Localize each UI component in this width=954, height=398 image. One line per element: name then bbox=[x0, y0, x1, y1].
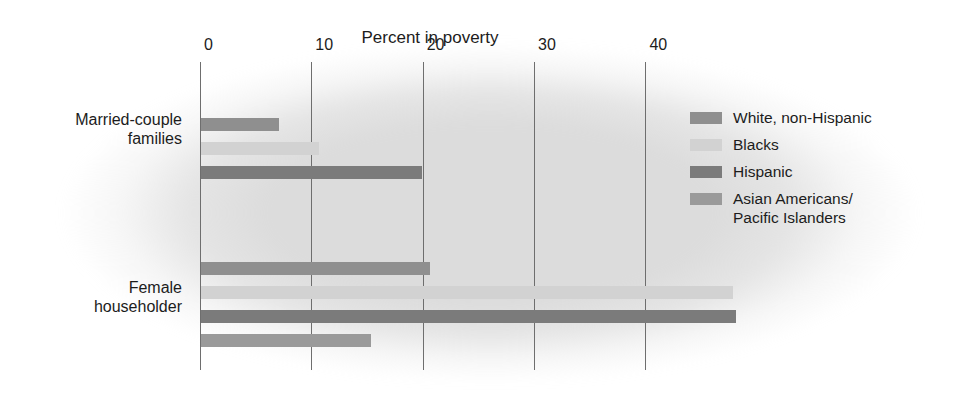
chart-legend: White, non-HispanicBlacksHispanicAsian A… bbox=[690, 108, 940, 235]
plot-area: 010203040 bbox=[200, 62, 690, 370]
gridline-20 bbox=[423, 62, 424, 370]
gridline-10 bbox=[311, 62, 312, 370]
legend-item: Hispanic bbox=[690, 162, 940, 181]
bar bbox=[201, 262, 430, 275]
category-label-line1: Married-couple bbox=[12, 110, 182, 129]
legend-swatch-icon bbox=[690, 139, 722, 151]
bar bbox=[201, 334, 371, 347]
gridline-0 bbox=[200, 62, 201, 370]
bar bbox=[201, 118, 279, 131]
x-tick-label-30: 30 bbox=[538, 36, 556, 54]
legend-swatch-icon bbox=[690, 166, 722, 178]
bar bbox=[201, 310, 736, 323]
legend-item: Asian Americans/ Pacific Islanders bbox=[690, 189, 940, 227]
category-label-line1: Female bbox=[12, 278, 182, 297]
category-label: Married-couplefamilies bbox=[12, 110, 182, 148]
legend-swatch-icon bbox=[690, 193, 722, 205]
x-tick-label-20: 20 bbox=[427, 36, 445, 54]
bar bbox=[201, 142, 319, 155]
chart-root: Percent in poverty 010203040 Married-cou… bbox=[0, 0, 954, 398]
bar bbox=[201, 286, 733, 299]
category-label-line2: householder bbox=[12, 297, 182, 316]
legend-label: Asian Americans/ Pacific Islanders bbox=[733, 189, 853, 227]
gridline-30 bbox=[534, 62, 535, 370]
category-label: Femalehouseholder bbox=[12, 278, 182, 316]
category-label-line2: families bbox=[12, 129, 182, 148]
legend-item: Blacks bbox=[690, 135, 940, 154]
legend-item: White, non-Hispanic bbox=[690, 108, 940, 127]
legend-label: Hispanic bbox=[733, 162, 792, 181]
bar bbox=[201, 166, 422, 179]
gridline-40 bbox=[645, 62, 646, 370]
x-tick-label-40: 40 bbox=[649, 36, 667, 54]
x-tick-label-0: 0 bbox=[204, 36, 213, 54]
legend-swatch-icon bbox=[690, 112, 722, 124]
legend-label: Blacks bbox=[733, 135, 779, 154]
legend-label: White, non-Hispanic bbox=[733, 108, 872, 127]
x-tick-label-10: 10 bbox=[315, 36, 333, 54]
